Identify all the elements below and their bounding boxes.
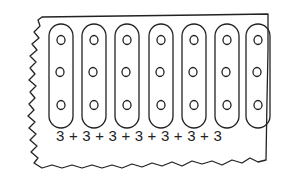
dot [156,68,164,77]
dot [57,101,65,110]
dot [57,36,65,45]
dot [223,36,231,45]
dot [189,68,197,77]
dot [222,68,230,77]
dot [89,68,97,77]
dot [253,68,261,77]
dot [223,101,231,110]
dot [90,101,98,110]
dot [122,68,130,77]
dot [123,101,131,110]
paper-strip-illustration: 3 + 3 + 3 + 3 + 3 + 3 + 3 [0,0,302,183]
dot [123,36,131,45]
dot [157,101,165,110]
dot [190,36,198,45]
paper-strip-drawing [0,0,302,183]
dot [254,101,262,110]
dot [157,36,165,45]
dot [56,68,64,77]
dot [90,36,98,45]
dot-groups [49,24,270,128]
dot [254,36,262,45]
dot [190,101,198,110]
addition-equation: 3 + 3 + 3 + 3 + 3 + 3 + 3 [56,127,222,144]
